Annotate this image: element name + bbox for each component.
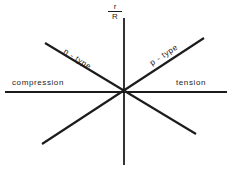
tension-label: tension <box>176 79 206 87</box>
y-axis-label-denominator: R <box>108 12 122 21</box>
y-axis-label-numerator: r <box>108 2 122 12</box>
y-axis-label: r R <box>108 2 122 21</box>
strain-resistance-diagram: r R n - type p - type compression tensio… <box>0 0 234 169</box>
compression-label: compression <box>12 79 64 87</box>
